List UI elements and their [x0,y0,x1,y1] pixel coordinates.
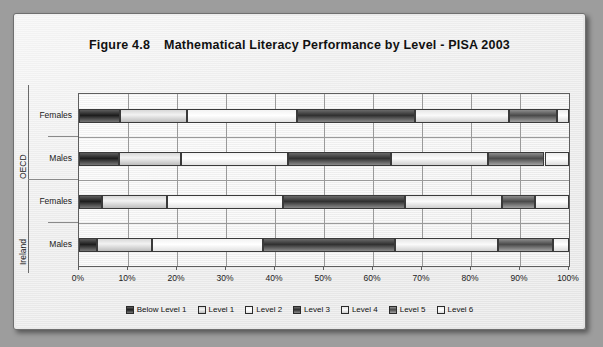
bar-ireland-females [79,195,569,209]
bar-segment-level-2 [187,109,297,123]
x-tickmark [225,266,226,270]
x-tickmark [323,266,324,270]
x-tick-label: 10% [107,273,147,283]
legend-swatch-icon [341,306,349,314]
bar-segment-level-2 [167,195,283,209]
legend-swatch-icon [245,306,253,314]
gridline-horizontal [79,180,569,181]
legend-item-level-5[interactable]: Level 5 [389,305,426,314]
figure-title-text: Mathematical Literacy Performance by Lev… [164,38,510,52]
x-tick-label: 70% [401,273,441,283]
figure-panel: Figure 4.8Mathematical Literacy Performa… [13,13,586,330]
bar-segment-below-level-1 [79,109,120,123]
legend-swatch-icon [293,306,301,314]
legend-swatch-icon [126,306,134,314]
x-tick-label: 0% [58,273,98,283]
group-label-oecd: OECD [18,154,28,179]
legend-label: Level 2 [256,305,282,314]
figure-inner-surface: Figure 4.8Mathematical Literacy Performa… [16,16,583,327]
x-tickmark [519,266,520,270]
legend-swatch-icon [389,306,397,314]
bar-segment-level-1 [102,195,167,209]
bar-segment-below-level-1 [79,195,102,209]
bar-segment-level-6 [535,195,569,209]
bar-segment-level-4 [405,195,502,209]
legend-item-level-2[interactable]: Level 2 [245,305,282,314]
bar-ireland-males [79,238,569,252]
legend-label: Level 5 [400,305,426,314]
legend-label: Level 1 [209,305,235,314]
axis-minor-tick [48,222,78,223]
x-tickmark [421,266,422,270]
x-tick-label: 80% [450,273,490,283]
x-tick-label: 30% [205,273,245,283]
category-label-ireland-males: Males [26,239,72,249]
bar-oecd-males [79,152,569,166]
bar-segment-level-6 [553,238,569,252]
gridline-horizontal [79,137,569,138]
legend-label: Level 3 [304,305,330,314]
figure-title: Figure 4.8Mathematical Literacy Performa… [16,38,583,52]
legend-label: Level 6 [448,305,474,314]
bar-segment-level-4 [415,109,509,123]
bar-segment-level-5 [502,195,535,209]
category-label-ireland-females: Females [26,196,72,206]
bar-segment-level-2 [152,238,263,252]
bar-segment-below-level-1 [79,152,119,166]
bar-segment-level-3 [263,238,395,252]
bar-segment-level-6 [545,152,570,166]
x-tickmark [568,266,569,270]
bar-segment-level-1 [97,238,152,252]
bar-segment-level-4 [395,238,498,252]
x-tickmark [78,266,79,270]
axis-minor-tick [48,136,78,137]
axis-group-divider [28,179,78,180]
legend-label: Below Level 1 [137,305,187,314]
x-tickmark [176,266,177,270]
bar-segment-level-5 [488,152,545,166]
bar-segment-level-3 [283,195,405,209]
bar-segment-level-1 [120,109,187,123]
legend-item-below-level-1[interactable]: Below Level 1 [126,305,187,314]
bar-segment-level-1 [119,152,181,166]
x-tickmark [274,266,275,270]
bar-segment-level-5 [509,109,557,123]
bar-segment-level-2 [181,152,288,166]
x-tick-label: 100% [548,273,588,283]
bar-oecd-females [79,109,569,123]
figure-number: Figure 4.8 [89,38,150,52]
bar-segment-level-5 [498,238,553,252]
bar-segment-level-3 [288,152,391,166]
x-tick-label: 50% [303,273,343,283]
x-tick-label: 90% [499,273,539,283]
x-tickmark [470,266,471,270]
x-tickmark [372,266,373,270]
legend-swatch-icon [198,306,206,314]
gridline-horizontal [79,223,569,224]
bar-segment-level-4 [391,152,488,166]
legend-label: Level 4 [352,305,378,314]
x-tick-label: 40% [254,273,294,283]
legend-item-level-1[interactable]: Level 1 [198,305,235,314]
legend-item-level-6[interactable]: Level 6 [437,305,474,314]
bar-segment-level-6 [557,109,569,123]
group-label-ireland: Ireland [18,239,28,265]
x-tick-label: 60% [352,273,392,283]
legend-item-level-4[interactable]: Level 4 [341,305,378,314]
category-label-oecd-females: Females [26,110,72,120]
x-tick-label: 20% [156,273,196,283]
chart-plot-area [78,93,570,267]
bar-segment-level-3 [297,109,415,123]
legend-swatch-icon [437,306,445,314]
chart-legend: Below Level 1Level 1Level 2Level 3Level … [14,305,585,314]
bar-segment-below-level-1 [79,238,97,252]
category-label-oecd-males: Males [26,153,72,163]
x-tickmark [127,266,128,270]
legend-item-level-3[interactable]: Level 3 [293,305,330,314]
